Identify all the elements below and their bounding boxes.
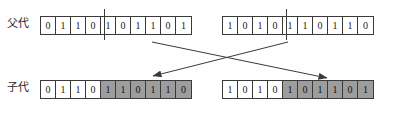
gene-cell: 0 [343, 81, 358, 98]
gene-cell: 0 [41, 17, 56, 34]
gene-cell: 1 [176, 17, 191, 34]
gene-cell: 1 [161, 81, 176, 98]
gene-cell: 1 [298, 17, 313, 34]
gene-cell: 1 [71, 81, 86, 98]
gene-cell: 0 [358, 17, 373, 34]
gene-cell: 1 [101, 81, 116, 98]
gene-cell: 1 [56, 17, 71, 34]
gene-cell: 0 [238, 17, 253, 34]
gene-cell: 0 [298, 81, 313, 98]
child-generation-label: 子代 [7, 82, 29, 93]
gene-cell: 1 [343, 17, 358, 34]
arrow-parent1-to-child2 [152, 42, 327, 78]
gene-cell: 0 [268, 81, 283, 98]
gene-cell: 0 [116, 17, 131, 34]
gene-cell: 0 [176, 81, 191, 98]
gene-cell: 0 [86, 17, 101, 34]
gene-cell: 1 [253, 17, 268, 34]
gene-cell: 1 [283, 81, 298, 98]
gene-cell: 1 [146, 17, 161, 34]
gene-cell: 0 [238, 81, 253, 98]
gene-cell: 1 [313, 81, 328, 98]
chromosome-parent-1: 0110101101 [40, 16, 192, 35]
gene-cell: 0 [313, 17, 328, 34]
arrow-parent2-to-child1 [153, 42, 288, 76]
gene-cell: 0 [161, 17, 176, 34]
gene-cell: 1 [223, 81, 238, 98]
crossover-point-marker-parent-1 [104, 9, 105, 40]
gene-cell: 1 [146, 81, 161, 98]
chromosome-child-2: 1010101101 [222, 80, 374, 99]
gene-cell: 1 [358, 81, 373, 98]
crossover-diagram: 父代 子代 0110101101 1010110110 0110110110 1… [0, 0, 395, 113]
gene-cell: 0 [131, 81, 146, 98]
gene-cell: 1 [56, 81, 71, 98]
gene-cell: 0 [86, 81, 101, 98]
gene-cell: 1 [223, 17, 238, 34]
gene-cell: 1 [328, 81, 343, 98]
gene-cell: 1 [116, 81, 131, 98]
gene-cell: 1 [253, 81, 268, 98]
chromosome-child-1: 0110110110 [40, 80, 192, 99]
gene-cell: 1 [71, 17, 86, 34]
crossover-point-marker-parent-2 [286, 9, 287, 40]
chromosome-parent-2: 1010110110 [222, 16, 374, 35]
gene-cell: 1 [131, 17, 146, 34]
gene-cell: 0 [268, 17, 283, 34]
parent-generation-label: 父代 [7, 18, 29, 29]
gene-cell: 0 [41, 81, 56, 98]
gene-cell: 1 [328, 17, 343, 34]
